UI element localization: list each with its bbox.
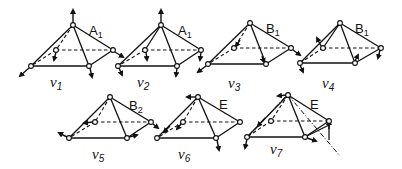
mode-v2-pyramid: A1 ν2: [116, 10, 204, 92]
mode-label-v7: ν7: [270, 141, 283, 159]
mode-v7-pyramid: E ν7: [245, 93, 340, 159]
mode-v1-pyramid: A1 ν1: [20, 10, 123, 92]
mode-label-v2: ν2: [137, 74, 150, 92]
symmetry-label-v3: B1: [266, 21, 280, 38]
mode-v6-pyramid: E ν6: [155, 95, 243, 164]
symmetry-label-v5: B2: [129, 98, 143, 115]
symmetry-label-v4: B1: [355, 21, 369, 38]
mode-v4-pyramid: B1 ν4: [298, 21, 384, 93]
mode-label-v5: ν5: [92, 146, 105, 164]
normal-modes-diagram: A1 ν1 A1 ν2: [0, 0, 402, 169]
mode-label-v3: ν3: [228, 75, 241, 93]
symmetry-label-v7: E: [310, 97, 319, 112]
mode-label-v6: ν6: [178, 146, 191, 164]
mode-label-v4: ν4: [322, 75, 335, 93]
symmetry-label-v2: A1: [178, 23, 192, 40]
mode-label-v1: ν1: [50, 74, 62, 92]
mode-v5-pyramid: B2 ν5: [59, 95, 158, 164]
symmetry-label-v6: E: [219, 97, 228, 112]
symmetry-label-v1: A1: [89, 23, 103, 40]
mode-v3-pyramid: B1 ν3: [198, 21, 300, 93]
